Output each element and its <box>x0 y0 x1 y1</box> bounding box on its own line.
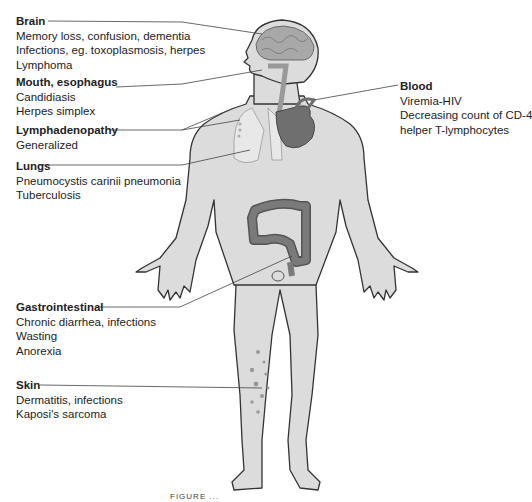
label-gastrointestinal: Gastrointestinal Chronic diarrhea, infec… <box>16 300 156 358</box>
label-line: Wasting <box>16 329 156 344</box>
label-title: Brain <box>16 14 205 29</box>
label-line: Candidiasis <box>16 90 118 105</box>
label-line: Pneumocystis carinii pneumonia <box>16 174 181 189</box>
label-line: Viremia-HIV <box>400 94 532 109</box>
label-title: Lymphadenopathy <box>16 123 118 138</box>
label-line: Tuberculosis <box>16 188 181 203</box>
label-line: Generalized <box>16 138 118 153</box>
label-line: Lymphoma <box>16 58 205 73</box>
label-lymphadenopathy: Lymphadenopathy Generalized <box>16 123 118 152</box>
label-line: Anorexia <box>16 344 156 359</box>
label-line: Memory loss, confusion, dementia <box>16 29 205 44</box>
label-line: Herpes simplex <box>16 104 118 119</box>
legs <box>232 268 320 490</box>
label-title: Lungs <box>16 159 181 174</box>
label-skin: Skin Dermatitis, infections Kaposi's sar… <box>16 378 123 422</box>
label-title: Gastrointestinal <box>16 300 156 315</box>
label-title: Skin <box>16 378 123 393</box>
label-line: Decreasing count of CD-4 <box>400 108 532 123</box>
label-blood: Blood Viremia-HIV Decreasing count of CD… <box>400 79 532 137</box>
label-line: Infections, eg. toxoplasmosis, herpes <box>16 43 205 58</box>
label-line: helper T-lymphocytes <box>400 123 532 138</box>
label-line: Kaposi's sarcoma <box>16 407 123 422</box>
label-line: Chronic diarrhea, infections <box>16 315 156 330</box>
label-mouth-esophagus: Mouth, esophagus Candidiasis Herpes simp… <box>16 75 118 119</box>
label-lungs: Lungs Pneumocystis carinii pneumonia Tub… <box>16 159 181 203</box>
figure-caption: FIGURE ... <box>170 492 219 501</box>
label-title: Blood <box>400 79 532 94</box>
label-title: Mouth, esophagus <box>16 75 118 90</box>
label-line: Dermatitis, infections <box>16 393 123 408</box>
label-brain: Brain Memory loss, confusion, dementia I… <box>16 14 205 72</box>
